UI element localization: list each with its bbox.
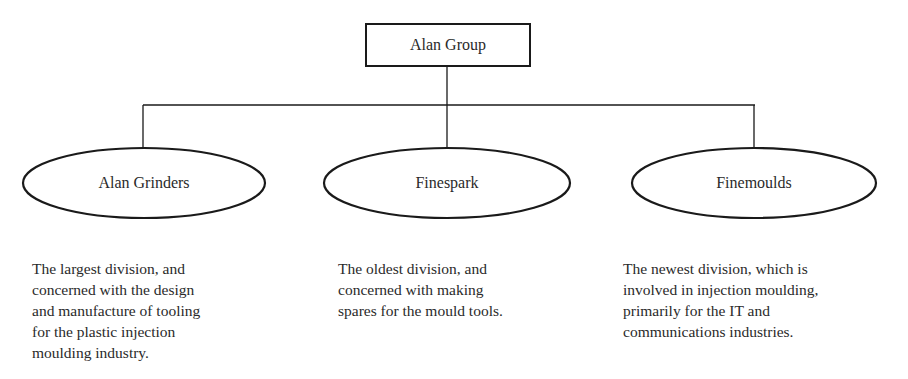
description-alan-grinders: The largest division, and concerned with… [32,258,292,363]
division-node-label: Finemoulds [716,174,792,192]
division-node-label: Finespark [415,174,478,192]
description-finespark: The oldest division, and concerned with … [338,258,598,321]
division-node-label: Alan Grinders [98,174,189,192]
description-finemoulds: The newest division, which is involved i… [623,258,908,342]
division-node-finemoulds: Finemoulds [632,148,876,218]
root-node-alan-group: Alan Group [365,23,531,67]
org-chart: Alan Group Alan Grinders Finespark Finem… [0,0,908,379]
division-node-finespark: Finespark [324,148,570,218]
division-node-alan-grinders: Alan Grinders [23,148,265,218]
root-node-label: Alan Group [410,36,486,54]
